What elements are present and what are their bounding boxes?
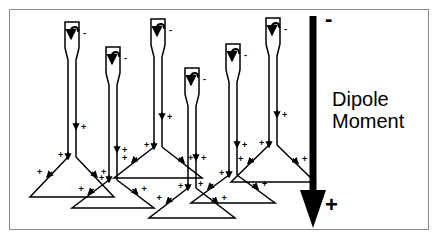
- molecule-1: -++++: [30, 22, 114, 197]
- molecule-2-stem-left: [106, 73, 109, 180]
- molecule-2-stem-right: [117, 73, 120, 180]
- molecule-1-stem-left: [65, 48, 68, 157]
- molecule-2-junction-charge: +: [99, 173, 104, 183]
- molecule-3: -++++: [114, 19, 202, 178]
- molecule-6: -++++: [231, 18, 315, 182]
- molecule-5-leg-right-charge: +: [262, 179, 267, 189]
- molecule-6-junction-charge: +: [259, 138, 264, 148]
- molecule-4-stem-charge: +: [201, 153, 206, 163]
- dipole-moment-figure: -++++-++++-++++-++++-++++-++++ DipoleMom…: [0, 0, 440, 241]
- dipole-arrow-shaft: [310, 16, 317, 190]
- molecule-6-base: [231, 145, 315, 182]
- dipole-label-line-2: Moment: [332, 110, 404, 132]
- molecule-4-junction-charge: +: [178, 181, 183, 191]
- dipole-arrow-layer: [300, 16, 326, 228]
- molecule-5-leg-left-charge: +: [198, 179, 203, 189]
- molecule-6-stem-left: [266, 44, 269, 145]
- dipole-arrow-head: [300, 190, 326, 228]
- molecule-1-stem-charge: +: [81, 122, 86, 132]
- molecule-3-head-charge: -: [169, 25, 172, 35]
- molecule-1-junction-charge: +: [58, 150, 63, 160]
- molecule-2-leg-left-charge: +: [79, 184, 84, 194]
- molecule-6-leg-left-charge: +: [238, 154, 243, 164]
- molecule-6-stem-charge: +: [282, 110, 287, 120]
- dipole-negative-sign: -: [325, 8, 332, 30]
- dipole-positive-sign: +: [325, 194, 338, 216]
- molecule-2-leg-right-charge: +: [142, 184, 147, 194]
- molecule-layer: -++++-++++-++++-++++-++++-++++: [30, 18, 315, 218]
- molecule-4-stem-left: [185, 94, 188, 188]
- molecule-5-stem-left: [226, 70, 229, 175]
- molecule-4-leg-left-charge: +: [157, 193, 162, 203]
- molecule-4-head-charge: -: [203, 74, 206, 84]
- molecule-5-stem-charge: +: [242, 140, 247, 150]
- molecule-5-head-charge: -: [244, 50, 247, 60]
- molecule-1-leg-left-charge: +: [37, 167, 42, 177]
- molecule-5-head-arrow: [232, 49, 239, 60]
- molecule-3-stem-left: [151, 45, 154, 147]
- molecule-3-leg-right-charge: +: [188, 153, 193, 163]
- molecule-6-head-arrow: [272, 23, 279, 34]
- molecule-3-stem-right: [162, 45, 165, 147]
- molecule-3-head-arrow: [157, 24, 164, 35]
- molecule-1-head-charge: -: [83, 28, 86, 38]
- molecule-6-head-charge: -: [284, 24, 287, 34]
- molecule-6-stem-right: [277, 44, 280, 145]
- molecule-6-leg-right-charge: +: [302, 154, 307, 164]
- molecule-5-junction-charge: +: [219, 168, 224, 178]
- molecule-3-junction-charge: +: [144, 140, 149, 150]
- molecule-1-stem-right: [76, 48, 79, 157]
- molecule-4-leg-right-charge: +: [222, 193, 227, 203]
- dipole-label-line-1: Dipole: [332, 88, 389, 110]
- molecule-1-head-arrow: [71, 27, 78, 38]
- molecule-3-leg-left-charge: +: [122, 153, 127, 163]
- molecule-2-head-charge: -: [124, 53, 127, 63]
- molecule-4-head-arrow: [191, 73, 198, 84]
- molecule-2-head-arrow: [112, 52, 119, 63]
- molecule-3-stem-charge: +: [167, 112, 172, 122]
- dipole-moment-label: DipoleMoment: [332, 88, 432, 132]
